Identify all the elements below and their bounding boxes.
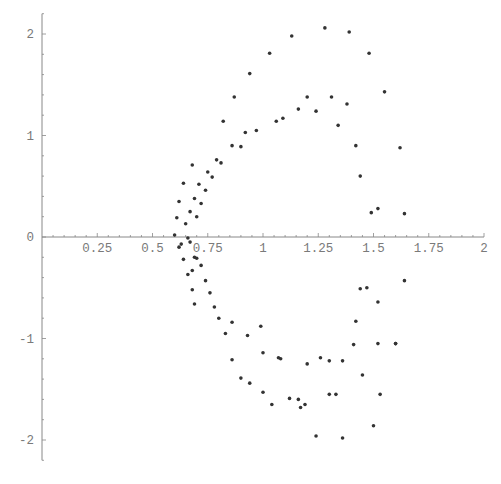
data-point [208, 291, 212, 295]
data-point [217, 316, 221, 320]
data-point [361, 373, 365, 377]
data-point [193, 197, 197, 201]
x-tick-label: 0.75 [193, 242, 223, 256]
data-point [177, 245, 181, 249]
data-point [190, 288, 194, 292]
y-tick-label: -2 [19, 434, 34, 448]
data-point [199, 202, 203, 206]
data-point [403, 212, 407, 216]
data-point [303, 403, 307, 407]
data-point [224, 332, 228, 336]
data-point [323, 26, 327, 30]
data-point [330, 95, 334, 99]
data-point [352, 343, 356, 347]
y-tick-label: 0 [26, 231, 34, 245]
data-point [305, 95, 309, 99]
data-point [213, 305, 217, 309]
data-point [248, 381, 252, 385]
data-point [341, 359, 345, 363]
tick-labels: 0.250.50.7511.251.51.752-2-1012 [19, 28, 488, 448]
data-point [328, 393, 332, 397]
data-point [372, 424, 376, 428]
data-point [255, 129, 259, 133]
data-point [259, 325, 263, 329]
data-point [188, 240, 192, 244]
data-point [290, 34, 294, 38]
data-point [186, 236, 190, 240]
data-point [199, 264, 203, 268]
data-point [367, 51, 371, 55]
x-tick-label: 0.5 [141, 242, 164, 256]
data-point [195, 215, 199, 219]
data-point [354, 319, 358, 323]
data-point [314, 109, 318, 113]
data-point [230, 320, 234, 324]
x-tick-label: 1.75 [414, 242, 444, 256]
data-point [347, 30, 351, 34]
data-point [297, 398, 301, 402]
data-point [190, 269, 194, 273]
data-point [221, 119, 225, 123]
data-point [239, 145, 243, 149]
y-tick-label: -1 [19, 333, 34, 347]
data-point [239, 376, 243, 380]
data-point [232, 95, 236, 99]
data-point [206, 170, 210, 174]
data-point [314, 434, 318, 438]
data-point [378, 393, 382, 397]
data-point [261, 351, 265, 355]
data-point [345, 102, 349, 106]
data-point [179, 242, 183, 246]
y-tick-label: 2 [26, 28, 34, 42]
data-point [394, 342, 398, 346]
x-tick-label: 2 [480, 242, 488, 256]
x-tick-label: 1.25 [303, 242, 333, 256]
data-point [369, 211, 373, 215]
x-tick-label: 0.25 [82, 242, 112, 256]
data-point [175, 216, 179, 220]
data-point [188, 210, 192, 214]
data-point [193, 302, 197, 306]
data-point [376, 300, 380, 304]
data-point [244, 131, 248, 135]
data-points [173, 26, 406, 440]
data-point [210, 175, 214, 179]
data-point [297, 107, 301, 111]
data-point [299, 406, 303, 410]
data-point [204, 279, 208, 283]
data-point [277, 356, 281, 360]
data-point [230, 144, 234, 148]
data-point [184, 222, 188, 226]
x-tick-label: 1 [259, 242, 267, 256]
data-point [230, 358, 234, 362]
data-point [403, 279, 407, 283]
y-tick-label: 1 [26, 130, 34, 144]
data-point [383, 90, 387, 94]
data-point [246, 334, 250, 338]
data-point [376, 342, 380, 346]
data-point [328, 359, 332, 363]
data-point [182, 258, 186, 262]
data-point [261, 390, 265, 394]
data-point [190, 163, 194, 167]
data-point [197, 182, 201, 186]
data-point [358, 287, 362, 291]
data-point [358, 174, 362, 178]
data-point [365, 286, 369, 290]
data-point [219, 161, 223, 165]
data-point [305, 362, 309, 366]
data-point [336, 124, 340, 128]
data-point [281, 116, 285, 120]
data-point [204, 189, 208, 193]
data-point [288, 397, 292, 401]
data-point [173, 233, 177, 237]
data-point [248, 72, 252, 76]
data-point [215, 158, 219, 162]
data-point [398, 146, 402, 150]
data-point [376, 207, 380, 211]
data-point [193, 255, 197, 259]
data-point [182, 181, 186, 185]
data-point [177, 200, 181, 204]
scatter-plot: 0.250.50.7511.251.51.752-2-1012 [0, 0, 501, 484]
x-tick-label: 1.5 [362, 242, 385, 256]
